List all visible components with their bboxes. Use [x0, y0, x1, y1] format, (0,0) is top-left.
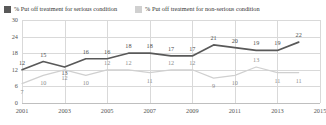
data-point-label: 17 — [168, 46, 174, 52]
x-axis-tick-label: 2013 — [271, 108, 284, 114]
x-axis-tick-label: 2011 — [229, 108, 241, 114]
x-axis-tick-label: 2001 — [16, 108, 29, 114]
gridline-y — [22, 103, 320, 104]
data-point-label: 17 — [189, 46, 195, 52]
x-axis-tick-label: 2007 — [143, 108, 156, 114]
y-axis-tick-label: 6 — [15, 83, 18, 89]
data-point-label: 12 — [125, 60, 131, 66]
legend-swatch-nonserious — [135, 6, 142, 13]
data-point-label: 10 — [232, 80, 238, 86]
y-axis-tick-label: 24 — [12, 33, 18, 39]
x-axis-tick-label: 2009 — [186, 108, 199, 114]
data-point-label: 20 — [232, 38, 238, 44]
y-axis-tick-label: 18 — [12, 50, 18, 56]
legend-label-nonserious: % Put off treatment for non-serious cond… — [145, 6, 260, 12]
data-point-label: 12 — [168, 60, 174, 66]
gridline-x — [320, 20, 321, 103]
y-axis-labels: 0612182430 — [0, 20, 18, 103]
data-point-label: 16 — [104, 49, 110, 55]
plot-area: 1215131616181817172120191922710121012121… — [22, 20, 320, 103]
legend-item-serious[interactable]: % Put off treatment for serious conditio… — [4, 6, 117, 13]
legend-label-serious: % Put off treatment for serious conditio… — [14, 6, 117, 12]
data-point-label: 12 — [61, 75, 67, 81]
data-point-label: 12 — [104, 60, 110, 66]
x-axis-labels: 20012003200520072009201120132015 — [22, 106, 320, 120]
data-point-label: 11 — [274, 77, 280, 83]
y-axis-tick-label: 30 — [12, 17, 18, 23]
data-point-label: 7 — [20, 89, 23, 95]
x-axis-tick-label: 2003 — [58, 108, 71, 114]
data-point-label: 18 — [125, 43, 131, 49]
data-point-label: 18 — [147, 43, 153, 49]
data-point-label: 21 — [210, 35, 216, 41]
y-axis-tick-label: 12 — [12, 67, 18, 73]
data-point-label: 22 — [296, 32, 302, 38]
data-point-label: 9 — [212, 83, 215, 89]
data-point-label: 19 — [253, 40, 259, 46]
chart-legend: % Put off treatment for serious conditio… — [4, 3, 321, 15]
y-axis-tick-label: 0 — [15, 100, 18, 106]
data-point-label: 15 — [40, 51, 46, 57]
legend-item-nonserious[interactable]: % Put off treatment for non-serious cond… — [135, 6, 260, 13]
data-point-label: 13 — [253, 57, 259, 63]
data-point-label: 11 — [147, 77, 153, 83]
x-axis-tick-label: 2015 — [314, 108, 326, 114]
data-point-label: 11 — [296, 77, 302, 83]
data-point-label: 10 — [83, 80, 89, 86]
data-point-label: 12 — [19, 60, 25, 66]
legend-swatch-serious — [4, 6, 11, 13]
data-point-label: 19 — [274, 40, 280, 46]
data-point-label: 10 — [40, 80, 46, 86]
data-point-label: 16 — [83, 49, 89, 55]
x-axis-tick-label: 2005 — [101, 108, 114, 114]
data-point-label: 12 — [189, 60, 195, 66]
